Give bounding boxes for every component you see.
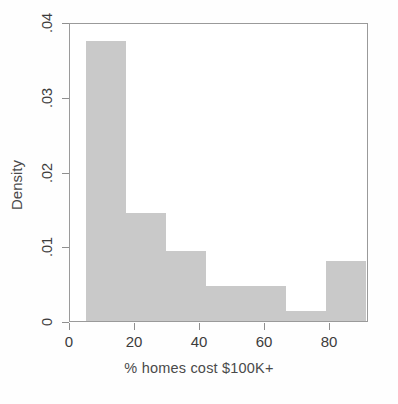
y-axis-tick-label: .02 <box>34 165 60 181</box>
histogram-bar <box>286 311 326 321</box>
histogram-bar <box>166 251 206 321</box>
x-axis-title: % homes cost $100K+ <box>0 360 398 376</box>
y-axis-tick <box>62 23 69 24</box>
y-axis-title: Density <box>6 130 28 240</box>
y-axis-tick <box>62 98 69 99</box>
histogram-bar <box>246 286 286 321</box>
plot-frame <box>69 23 368 322</box>
y-axis-tick-label: 0 <box>34 314 60 330</box>
histogram-bar <box>326 261 366 321</box>
x-axis-tick-label: 20 <box>114 333 154 350</box>
y-axis-title-text: Density <box>6 130 28 240</box>
x-axis-tick <box>134 323 135 330</box>
y-axis-tick <box>62 173 69 174</box>
x-axis-tick-label: 80 <box>309 333 349 350</box>
plot-area <box>70 24 367 321</box>
histogram-figure: Density 0.01.02.03.04 020406080 % homes … <box>0 0 398 404</box>
histogram-bar <box>126 213 166 321</box>
x-axis-tick-label: 0 <box>49 333 89 350</box>
histogram-bar <box>206 286 246 321</box>
y-axis-tick <box>62 247 69 248</box>
histogram-bar <box>86 41 126 321</box>
x-axis-tick-label: 60 <box>244 333 284 350</box>
x-axis-tick <box>199 323 200 330</box>
x-axis-tick-label: 40 <box>179 333 219 350</box>
x-axis-tick <box>329 323 330 330</box>
y-axis-tick <box>62 322 69 323</box>
x-axis-tick <box>264 323 265 330</box>
y-axis-tick-label: .01 <box>34 239 60 255</box>
y-axis-tick-label: .03 <box>34 90 60 106</box>
x-axis-tick <box>69 323 70 330</box>
y-axis-tick-label: .04 <box>34 15 60 31</box>
